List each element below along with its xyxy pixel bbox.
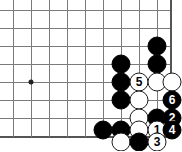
move-number-label: 6	[169, 94, 176, 106]
grid-line-vertical	[13, 0, 14, 137]
white-stone[interactable]	[163, 73, 182, 92]
black-stone[interactable]	[94, 121, 113, 140]
grid-line-vertical	[31, 0, 32, 137]
white-move-5[interactable]: 5	[130, 73, 149, 92]
black-stone[interactable]	[148, 37, 167, 56]
grid-line-vertical	[49, 0, 50, 137]
black-stone[interactable]	[112, 55, 131, 74]
grid-line-vertical	[103, 0, 104, 137]
move-number-label: 5	[136, 76, 143, 88]
move-number-label: 3	[154, 136, 161, 148]
grid-line-vertical	[85, 0, 86, 137]
white-stone[interactable]	[112, 133, 131, 152]
black-stone[interactable]	[130, 133, 149, 152]
black-stone[interactable]	[112, 91, 131, 110]
white-move-3[interactable]: 3	[148, 133, 167, 152]
white-stone[interactable]	[130, 91, 149, 110]
go-board[interactable]: 562143	[0, 0, 182, 151]
grid-line-vertical	[67, 0, 68, 137]
black-move-6[interactable]: 6	[163, 91, 182, 110]
black-stone[interactable]	[148, 55, 167, 74]
move-number-label: 4	[169, 124, 176, 136]
black-stone[interactable]	[112, 73, 131, 92]
star-point-icon	[29, 80, 34, 85]
